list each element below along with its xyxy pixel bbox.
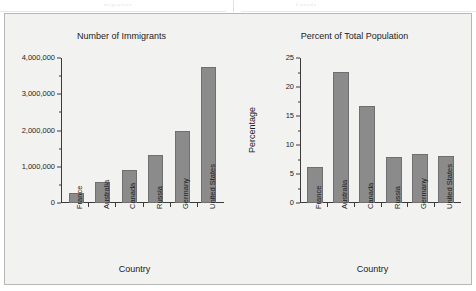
x-axis-category-label: Canada [129,183,137,209]
category-label-slot: France [302,207,328,259]
y-axis-minor-tick [0,76,61,77]
x-axis-category-label: France [315,186,323,209]
y-axis-tick-label: 2,000,000 [22,126,55,134]
plot-area: 0510152025 [300,58,461,203]
y-axis-minor-tick [139,72,300,73]
category-label-slot: France [63,207,90,259]
page-column-divider [233,0,234,12]
y-axis-tick-label: 15 [286,112,294,120]
y-axis-minor-tick [0,112,61,113]
bar-slot [381,58,407,203]
category-label-slot: Germany [169,207,196,259]
y-axis-title: Percentage [247,107,257,153]
y-axis-tick-label: 1,000,000 [22,163,55,171]
y-axis-tick: 25 [139,58,300,59]
figure-frame: Number of Immigrants 01,000,0002,000,000… [4,13,472,285]
y-axis-tick: 10 [139,145,300,146]
x-axis-category-label: United States [446,164,454,209]
x-axis-title: Country [45,264,224,274]
x-axis-category-label: Australia [341,180,349,209]
bar-slot [63,58,90,203]
x-axis-category-label: France [76,186,84,209]
bar-series [300,58,461,203]
y-axis-tick: 0 [0,203,61,204]
scan-artifact-right-text: Canada [296,2,317,7]
y-axis-tick: 2,000,000 [0,130,61,131]
y-axis-minor-tick [139,130,300,131]
y-axis-tick-label: 25 [286,54,294,62]
chart-title: Number of Immigrants [5,31,238,41]
bar-slot [354,58,380,203]
x-axis-category-labels: FranceAustraliaCanadaRussiaGermanyUnited… [61,207,224,259]
x-axis-category-label: Germany [182,178,190,209]
y-axis-tick-label: 3,000,000 [22,90,55,98]
y-axis-tick: 4,000,000 [0,58,61,59]
x-axis-category-label: Russia [156,186,164,209]
category-label-slot: Russia [143,207,170,259]
y-axis-tick-label: 0 [51,199,55,207]
y-axis-tick: 20 [139,87,300,88]
x-axis-title: Country [284,264,461,274]
category-label-slot: Australia [328,207,354,259]
x-axis-category-labels: FranceAustraliaCanadaRussiaGermanyUnited… [300,207,461,259]
category-label-slot: Australia [90,207,117,259]
y-axis-tick: 0 [139,203,300,204]
y-axis-minor-tick [139,159,300,160]
category-label-slot: United States [433,207,459,259]
category-label-slot: Germany [407,207,433,259]
scan-artifact-left-text: migration [104,2,132,7]
y-axis-minor-tick [0,184,61,185]
page-rule-left [0,11,226,12]
bar-slot [302,58,328,203]
y-axis-tick: 3,000,000 [0,94,61,95]
category-label-slot: Canada [354,207,380,259]
y-axis-tick-label: 4,000,000 [22,54,55,62]
y-axis-tick-label: 10 [286,141,294,149]
chart-panel-percent-of-total-population: Percent of Total Population 0510152025 P… [238,14,471,284]
category-label-slot: Russia [381,207,407,259]
y-axis-tick: 15 [139,116,300,117]
y-axis-tick: 1,000,000 [0,166,61,167]
x-axis-category-label: Australia [103,180,111,209]
y-axis-minor-tick [139,101,300,102]
x-axis-category-label: Canada [367,183,375,209]
page-rule-right [241,11,476,12]
y-axis-tick-label: 0 [290,199,294,207]
charts-row: Number of Immigrants 01,000,0002,000,000… [5,14,471,284]
y-axis-minor-tick [139,188,300,189]
x-axis-category-label: Russia [394,186,402,209]
y-axis-tick-label: 20 [286,83,294,91]
y-axis-minor-tick [0,148,61,149]
category-label-slot: Canada [116,207,143,259]
chart-panel-number-of-immigrants: Number of Immigrants 01,000,0002,000,000… [5,14,238,284]
x-axis-category-label: Germany [420,178,428,209]
y-axis-tick: 5 [139,174,300,175]
chart-title: Percent of Total Population [238,31,471,41]
y-axis-tick-label: 5 [290,170,294,178]
category-label-slot: United States [196,207,223,259]
